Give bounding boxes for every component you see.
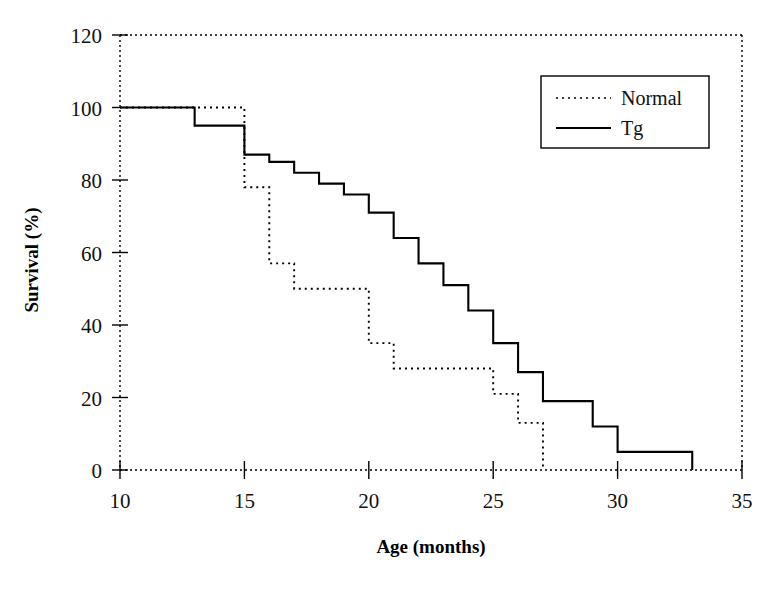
x-axis-title: Age (months) (376, 536, 485, 558)
y-tick-label: 80 (81, 169, 102, 193)
x-tick-label: 10 (110, 489, 131, 513)
survival-chart: 020406080100120 101520253035 Age (months… (0, 0, 778, 604)
y-tick-label: 40 (81, 314, 102, 338)
y-tick-label: 20 (81, 387, 102, 411)
y-tick-label: 100 (71, 97, 103, 121)
legend: Normal Tg (541, 76, 709, 148)
x-tick-label: 20 (358, 489, 379, 513)
chart-canvas: 020406080100120 101520253035 Age (months… (0, 0, 778, 604)
x-tick-label: 35 (732, 489, 753, 513)
y-axis-title: Survival (%) (21, 207, 43, 312)
y-tick-label: 60 (81, 242, 102, 266)
series-line-tg (120, 108, 692, 471)
series-line-normal (120, 108, 543, 471)
legend-label-normal: Normal (621, 87, 683, 109)
x-tick-label: 15 (234, 489, 255, 513)
data-series-group (120, 108, 692, 471)
x-tick-label: 25 (483, 489, 504, 513)
y-tick-label: 0 (92, 459, 103, 483)
legend-label-tg: Tg (621, 117, 643, 140)
x-axis-tick-labels: 101520253035 (110, 489, 753, 513)
y-tick-label: 120 (71, 24, 103, 48)
x-tick-label: 30 (607, 489, 628, 513)
y-axis-tick-labels: 020406080100120 (71, 24, 103, 483)
